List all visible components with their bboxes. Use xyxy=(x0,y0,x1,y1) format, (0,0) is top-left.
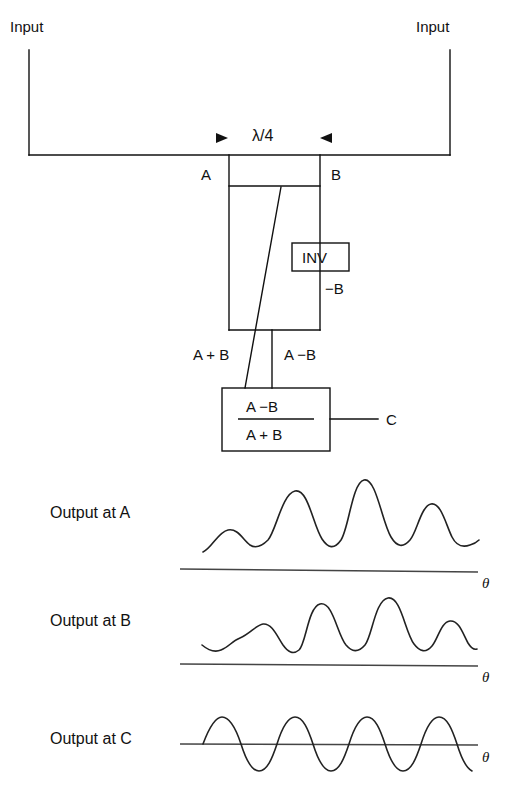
inverter-label: INV xyxy=(302,249,327,266)
cross-coupling-wire xyxy=(245,187,281,388)
input-left-label: Input xyxy=(10,18,44,35)
waveform-label-b: Output at B xyxy=(50,612,131,629)
ratio-denominator-label: A + B xyxy=(246,426,282,443)
difference-label: A −B xyxy=(284,346,316,363)
figure-root: Input Input λ/4 A B INV −B A + B A −B A … xyxy=(0,0,518,799)
axis-line-b xyxy=(180,664,478,666)
lambda-arrow-left-icon xyxy=(216,133,228,143)
lambda-arrow-right-icon xyxy=(320,133,332,143)
axis-theta-label-c: θ xyxy=(482,749,490,765)
axis-theta-label-b: θ xyxy=(482,669,490,685)
lambda-quarter-label: λ/4 xyxy=(252,127,273,144)
waveform-trace-b xyxy=(202,598,477,653)
axis-theta-label-a: θ xyxy=(482,575,490,591)
sum-label: A + B xyxy=(193,346,229,363)
node-a-label: A xyxy=(201,166,211,183)
axis-line-c xyxy=(180,744,478,745)
axis-line-a xyxy=(180,569,478,572)
inverted-b-label: −B xyxy=(325,280,344,297)
ratio-numerator-label: A −B xyxy=(246,398,278,415)
output-c-label: C xyxy=(386,411,397,428)
waveform-trace-a xyxy=(203,480,479,552)
node-b-label: B xyxy=(331,166,341,183)
diagram-canvas: Input Input λ/4 A B INV −B A + B A −B A … xyxy=(0,0,518,799)
waveform-label-c: Output at C xyxy=(50,730,132,747)
waveform-label-a: Output at A xyxy=(50,504,130,521)
input-right-label: Input xyxy=(416,18,450,35)
